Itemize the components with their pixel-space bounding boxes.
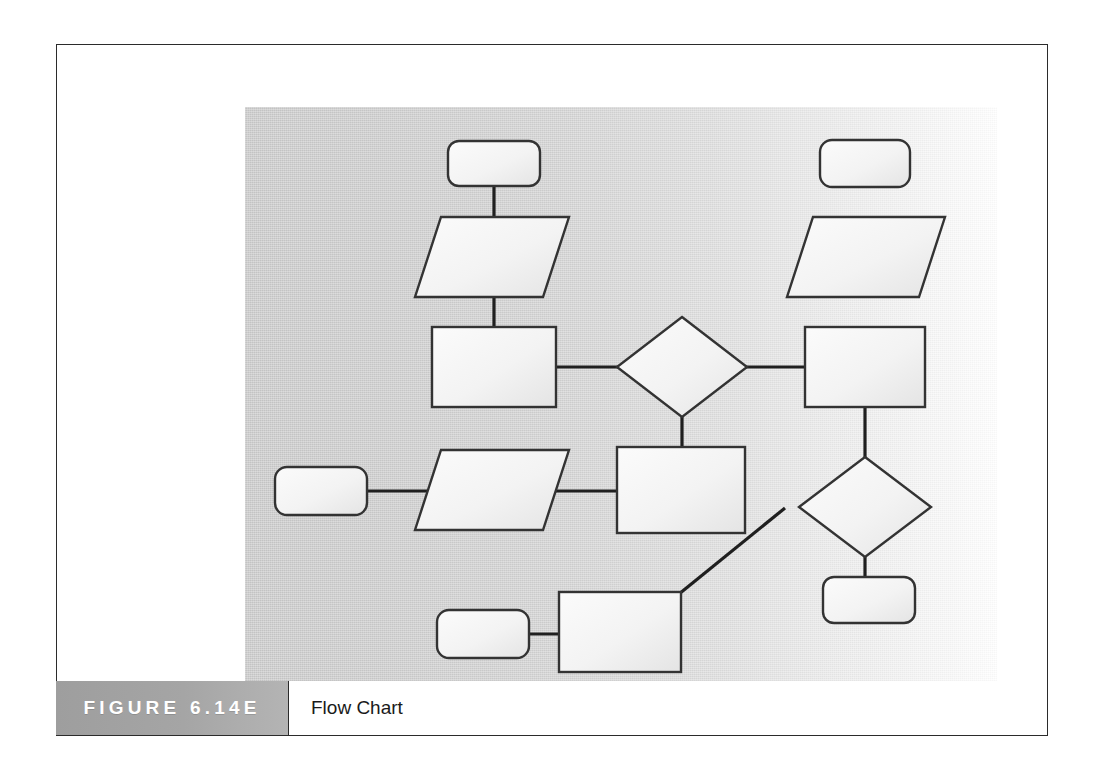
terminator-top-left[interactable] (448, 141, 540, 186)
terminator-left[interactable] (275, 467, 367, 515)
process-upper-right[interactable] (805, 327, 925, 407)
figure-caption-label: Flow Chart (289, 681, 1046, 735)
flow-chart-diagram (245, 107, 997, 702)
terminator-top-right[interactable] (820, 140, 910, 187)
decision-first[interactable] (617, 317, 747, 417)
terminator-bottom-left[interactable] (437, 610, 529, 658)
input-output-top-left[interactable] (415, 217, 569, 297)
decision-second[interactable] (799, 457, 931, 557)
process-center[interactable] (617, 447, 745, 533)
process-bottom[interactable] (559, 592, 681, 672)
figure-page: FIGURE 6.14E Flow Chart (0, 0, 1100, 776)
figure-caption-row: FIGURE 6.14E Flow Chart (56, 681, 1046, 735)
input-output-middle-left[interactable] (415, 450, 569, 530)
figure-frame: FIGURE 6.14E Flow Chart (56, 44, 1048, 736)
figure-number-badge: FIGURE 6.14E (56, 681, 289, 735)
terminator-bottom-right[interactable] (823, 577, 915, 623)
process-upper-left[interactable] (432, 327, 556, 407)
input-output-top-right[interactable] (787, 217, 945, 297)
